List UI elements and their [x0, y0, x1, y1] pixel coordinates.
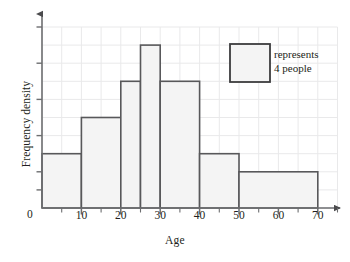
x-axis-tick-label-0: 0: [27, 208, 33, 220]
x-axis-tick-label-70: 70: [305, 209, 331, 221]
histogram-bar-20-25[interactable]: [121, 81, 141, 208]
histogram-canvas: [0, 0, 350, 262]
histogram-bar-30-40[interactable]: [160, 81, 199, 208]
x-axis-tick-label-40: 40: [187, 209, 213, 221]
histogram-bar-25-30[interactable]: [141, 45, 161, 208]
legend-key-square: [230, 44, 270, 82]
histogram-bar-40-50[interactable]: [200, 154, 239, 208]
x-axis-label: Age: [0, 234, 350, 246]
x-axis-tick-label-20: 20: [108, 209, 134, 221]
histogram-figure: Frequency density Age 0 10 20 30 40 50 6…: [0, 0, 350, 262]
legend-label-line1: represents: [274, 48, 319, 62]
y-axis-label: Frequency density: [20, 44, 32, 204]
legend-label-line2: 4 people: [274, 62, 319, 76]
histogram-bar-10-20[interactable]: [81, 118, 120, 209]
histogram-bar-50-70[interactable]: [239, 172, 318, 208]
x-axis-tick-label-30: 30: [147, 209, 173, 221]
histogram-bar-0-10[interactable]: [42, 154, 81, 208]
x-axis-tick-label-10: 10: [68, 209, 94, 221]
y-axis-ticks: [37, 27, 43, 190]
x-axis-tick-label-50: 50: [226, 209, 252, 221]
legend-label: represents 4 people: [274, 48, 319, 75]
x-axis-tick-label-60: 60: [265, 209, 291, 221]
